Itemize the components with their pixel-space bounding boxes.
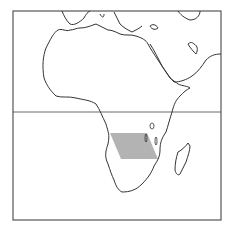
africa-map [0,0,236,228]
